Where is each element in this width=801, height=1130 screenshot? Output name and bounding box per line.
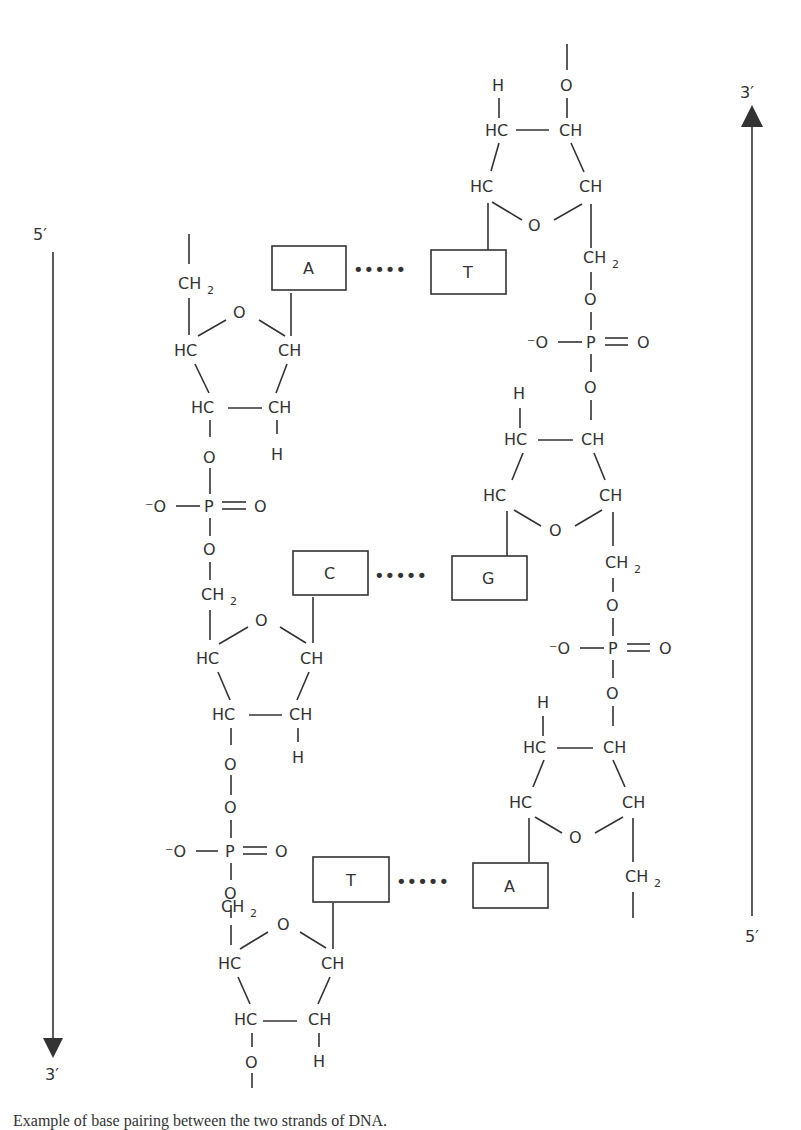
svg-text:O: O <box>528 216 541 235</box>
svg-text:O: O <box>606 596 619 615</box>
svg-text:CH: CH <box>308 1010 331 1029</box>
arrowhead-down-icon <box>43 1038 63 1058</box>
hydrogen-bond-dots-3: ••••• <box>396 871 449 892</box>
svg-text:O: O <box>203 540 216 559</box>
right-strand-top-label: 3′ <box>740 83 754 102</box>
svg-text:O: O <box>549 521 562 540</box>
base-label: G <box>482 569 494 588</box>
base-label: T <box>462 263 473 282</box>
svg-text:⁻O: ⁻O <box>549 639 570 658</box>
svg-text:HC: HC <box>470 177 493 196</box>
base-label: C <box>324 564 335 583</box>
svg-text:CH: CH <box>599 486 622 505</box>
base-label: A <box>303 259 314 278</box>
svg-text:P: P <box>225 842 235 861</box>
svg-text:HC: HC <box>509 793 532 812</box>
svg-text:CH: CH <box>321 954 344 973</box>
svg-text:HC: HC <box>196 649 219 668</box>
svg-text:2: 2 <box>207 284 214 297</box>
svg-text:O: O <box>233 303 246 322</box>
hydrogen-bond-dots-1: ••••• <box>353 259 406 280</box>
svg-text:O: O <box>203 448 216 467</box>
svg-text:H: H <box>513 384 525 403</box>
svg-text:2: 2 <box>654 877 661 890</box>
left-strand-top-label: 5′ <box>33 225 47 244</box>
figure-caption: Example of base pairing between the two … <box>13 1112 387 1130</box>
right-nucleotide-3: H HC CH HC CH O CH2 A <box>473 693 661 918</box>
svg-text:CH: CH <box>559 121 582 140</box>
svg-text:HC: HC <box>174 341 197 360</box>
right-strand-arrow: 3′ 5′ <box>740 83 763 946</box>
svg-text:⁻O: ⁻O <box>165 842 186 861</box>
hydrogen-bond-dots-2: ••••• <box>374 565 427 586</box>
right-nucleotide-2: H HC CH HC CH O CH2 O G <box>452 384 641 615</box>
svg-text:O: O <box>277 915 290 934</box>
svg-text:P: P <box>586 333 596 352</box>
left-strand-arrow: 5′ 3′ <box>33 225 63 1084</box>
svg-text:O: O <box>275 842 288 861</box>
svg-text:CH: CH <box>603 738 626 757</box>
svg-text:CH: CH <box>625 867 648 886</box>
right-strand-bottom-label: 5′ <box>745 927 759 946</box>
svg-text:H: H <box>537 693 549 712</box>
svg-text:CH: CH <box>178 274 201 293</box>
svg-text:CH: CH <box>300 649 323 668</box>
svg-text:⁻O: ⁻O <box>527 333 548 352</box>
arrowhead-up-icon <box>741 105 763 127</box>
svg-text:HC: HC <box>212 705 235 724</box>
svg-text:CH: CH <box>605 553 628 572</box>
svg-text:O: O <box>584 378 597 397</box>
left-nucleotide-3: CH2 O HC CH HC CH O H T <box>218 857 389 1088</box>
svg-text:2: 2 <box>634 563 641 576</box>
base-label: T <box>345 871 356 890</box>
svg-text:HC: HC <box>485 121 508 140</box>
right-phosphate-2: ⁻O P O O <box>549 618 672 703</box>
svg-text:O: O <box>224 755 237 774</box>
svg-text:O: O <box>606 684 619 703</box>
svg-text:CH: CH <box>579 177 602 196</box>
svg-text:CH: CH <box>268 398 291 417</box>
svg-text:HC: HC <box>483 486 506 505</box>
svg-text:CH: CH <box>278 341 301 360</box>
svg-text:2: 2 <box>230 595 237 608</box>
left-nucleotide-1: CH2 O HC CH HC CH O H A <box>174 234 346 467</box>
svg-text:2: 2 <box>250 907 257 920</box>
svg-text:HC: HC <box>523 738 546 757</box>
svg-text:O: O <box>245 1053 258 1072</box>
svg-text:CH: CH <box>201 585 224 604</box>
svg-text:HC: HC <box>504 430 527 449</box>
svg-text:P: P <box>204 497 214 516</box>
svg-text:HC: HC <box>191 398 214 417</box>
svg-text:CH: CH <box>622 793 645 812</box>
svg-text:O: O <box>254 497 267 516</box>
svg-text:CH: CH <box>289 705 312 724</box>
svg-text:O: O <box>637 333 650 352</box>
svg-text:P: P <box>608 639 618 658</box>
svg-text:H: H <box>313 1052 325 1071</box>
right-phosphate-1: ⁻O P O O <box>527 312 650 397</box>
svg-text:O: O <box>224 798 237 817</box>
svg-text:H: H <box>492 76 504 95</box>
base-label: A <box>504 877 515 896</box>
svg-text:O: O <box>560 76 573 95</box>
svg-text:O: O <box>255 611 268 630</box>
right-nucleotide-1: O H HC CH HC CH O CH2 O T <box>431 44 619 309</box>
svg-text:H: H <box>271 445 283 464</box>
svg-text:O: O <box>569 828 582 847</box>
left-strand-bottom-label: 3′ <box>45 1065 59 1084</box>
dna-base-pairing-diagram: 5′ 3′ 3′ 5′ CH2 O HC CH HC CH O H A ⁻O <box>0 0 801 1130</box>
svg-text:HC: HC <box>234 1010 257 1029</box>
svg-text:2: 2 <box>612 258 619 271</box>
svg-text:O: O <box>584 290 597 309</box>
left-nucleotide-2: CH2 O HC CH HC CH O H C <box>196 551 368 774</box>
left-phosphate-1: ⁻O P O O <box>145 468 267 580</box>
svg-text:O: O <box>659 639 672 658</box>
svg-text:CH: CH <box>583 248 606 267</box>
svg-text:⁻O: ⁻O <box>145 497 166 516</box>
svg-text:CH: CH <box>221 897 244 916</box>
svg-text:H: H <box>292 748 304 767</box>
svg-text:CH: CH <box>581 430 604 449</box>
svg-text:HC: HC <box>218 954 241 973</box>
